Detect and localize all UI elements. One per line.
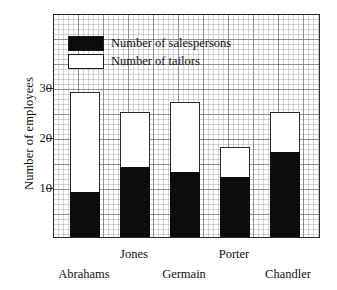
bar-segment-salespersons [270, 152, 300, 237]
bar-segment-salespersons [120, 167, 150, 237]
bar-segment-salespersons [220, 177, 250, 237]
stacked-bar-chart: Number of employees 30 20 10 [0, 0, 337, 290]
bar-germain [170, 102, 200, 237]
category-label-chandler: Chandler [265, 268, 311, 281]
legend-item-tailors: Number of tailors [68, 54, 231, 69]
chart-legend: Number of salespersons Number of tailors [68, 36, 231, 69]
bar-porter [220, 147, 250, 237]
legend-label-salespersons: Number of salespersons [111, 37, 231, 50]
bar-segment-salespersons [70, 192, 100, 237]
category-label-germain: Germain [162, 268, 206, 281]
category-label-abrahams: Abrahams [58, 268, 109, 281]
legend-item-salespersons: Number of salespersons [68, 36, 231, 51]
filled-black-swatch [68, 36, 104, 51]
bar-abrahams [70, 92, 100, 237]
bar-chandler [270, 112, 300, 237]
bar-segment-salespersons [170, 172, 200, 237]
hollow-white-swatch [68, 54, 104, 69]
bar-jones [120, 112, 150, 237]
legend-label-tailors: Number of tailors [111, 55, 200, 68]
category-label-porter: Porter [219, 248, 250, 261]
category-label-jones: Jones [120, 248, 148, 261]
